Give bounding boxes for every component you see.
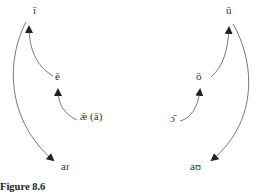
arrow-ae-to-e [58, 90, 77, 120]
vowel-shift-diagram: ī ē ǣ (ā) aɪ ū ō ɔ̄ aʊ Figure 8.6 [0, 0, 260, 195]
vowel-u-long: ū [226, 4, 232, 16]
diphthong-au: aʊ [190, 160, 201, 172]
diphthong-ai: aɪ [61, 160, 69, 172]
arrow-o-to-u [211, 28, 229, 77]
vowel-ae-long: ǣ (ā) [80, 110, 102, 122]
vowel-open-o-long: ɔ̄ [170, 112, 175, 124]
vowel-e-long: ē [55, 70, 60, 82]
figure-caption: Figure 8.6 [0, 181, 45, 192]
arrow-i-to-ai [13, 22, 53, 160]
vowel-o-long: ō [196, 70, 202, 82]
arrows-layer [0, 0, 260, 195]
arrow-e-to-i [29, 27, 53, 76]
arrow-open-o-to-o [180, 90, 200, 121]
vowel-i-long: ī [33, 4, 36, 16]
arrow-u-to-au [212, 24, 249, 160]
